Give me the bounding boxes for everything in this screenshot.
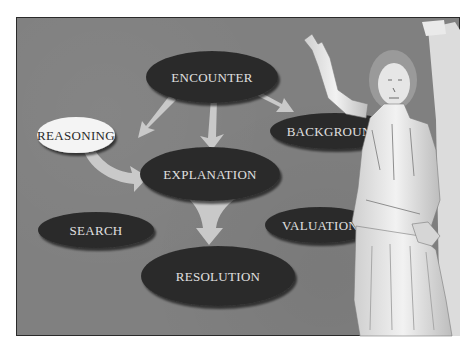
node-encounter-label: ENCOUNTER <box>171 70 252 85</box>
node-reasoning-label: REASONING <box>37 128 115 143</box>
arrow-encounter-to-reasoning <box>138 95 176 138</box>
arrow-encounter-to-explanation <box>200 98 224 150</box>
node-valuation-label: VALUATION <box>282 218 358 233</box>
node-resolution-label: RESOLUTION <box>176 269 261 284</box>
process-diagram: ENCOUNTER REASONING BACKGROUND EXPLANATI… <box>0 0 475 362</box>
node-search-label: SEARCH <box>69 223 122 238</box>
node-explanation-label: EXPLANATION <box>163 167 257 182</box>
statue-image <box>304 20 460 336</box>
arrow-explanation-to-resolution <box>188 198 236 245</box>
